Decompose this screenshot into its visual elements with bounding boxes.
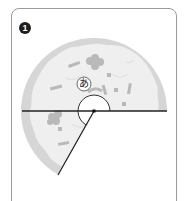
center-point bbox=[93, 110, 96, 113]
angle-label: あ bbox=[77, 77, 91, 91]
pizza-diagram bbox=[0, 0, 186, 201]
